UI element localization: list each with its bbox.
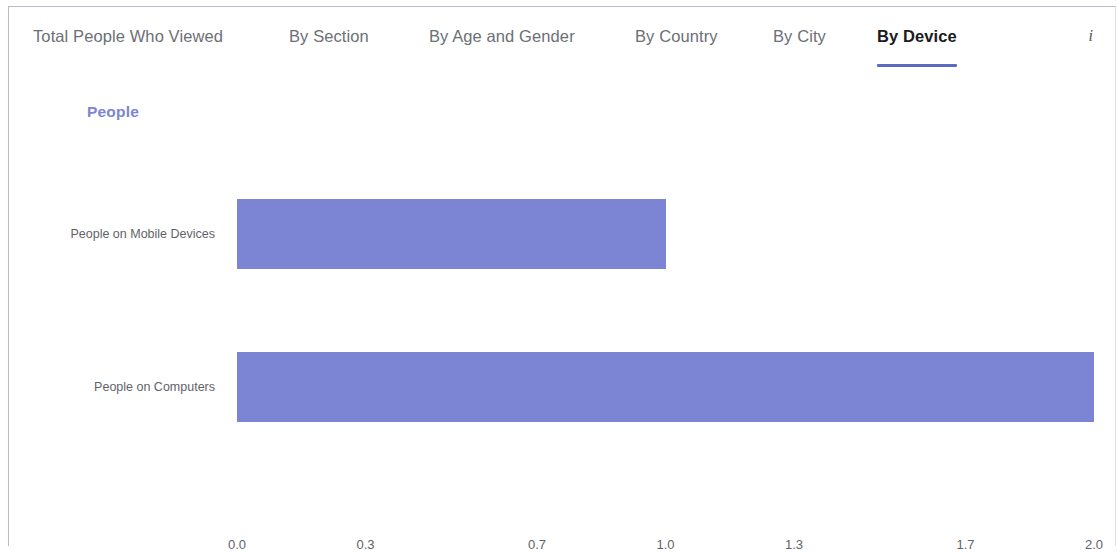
x-axis-tick: 2.0 xyxy=(1085,537,1103,552)
analytics-card: Total People Who Viewed By Section By Ag… xyxy=(8,6,1116,546)
tab-by-city[interactable]: By City xyxy=(773,23,826,49)
tab-label: Total People Who Viewed xyxy=(33,27,223,45)
active-tab-indicator xyxy=(877,64,957,67)
info-icon[interactable]: i xyxy=(1089,23,1093,49)
x-axis: 0.00.30.71.01.31.72.0 xyxy=(237,537,1094,553)
tab-total-people-who-viewed[interactable]: Total People Who Viewed xyxy=(33,23,223,49)
bar-row: People on Computers xyxy=(237,352,1094,422)
tab-bar: Total People Who Viewed By Section By Ag… xyxy=(9,23,1115,75)
tab-label: By City xyxy=(773,27,826,45)
category-label: People on Computers xyxy=(94,380,215,394)
tab-label: By Age and Gender xyxy=(429,27,575,45)
chart-legend-people: People xyxy=(87,103,139,121)
x-axis-tick: 0.3 xyxy=(357,537,375,552)
x-axis-tick: 0.7 xyxy=(528,537,546,552)
tab-label: By Section xyxy=(289,27,369,45)
plot-area: People on Mobile Devices People on Compu… xyxy=(237,190,1094,470)
x-axis-tick: 1.7 xyxy=(956,537,974,552)
x-axis-tick: 1.0 xyxy=(656,537,674,552)
tab-by-country[interactable]: By Country xyxy=(635,23,718,49)
bar-row: People on Mobile Devices xyxy=(237,199,1094,269)
x-axis-tick: 0.0 xyxy=(228,537,246,552)
category-label: People on Mobile Devices xyxy=(70,227,215,241)
device-bar-chart: People People on Mobile Devices People o… xyxy=(9,75,1115,546)
tab-label: By Device xyxy=(877,27,957,45)
tab-by-device[interactable]: By Device xyxy=(877,23,957,49)
bar-people-on-mobile-devices[interactable] xyxy=(237,199,666,269)
x-axis-tick: 1.3 xyxy=(785,537,803,552)
tab-by-age-and-gender[interactable]: By Age and Gender xyxy=(429,23,575,49)
bar-people-on-computers[interactable] xyxy=(237,352,1094,422)
tab-by-section[interactable]: By Section xyxy=(289,23,369,49)
tab-label: By Country xyxy=(635,27,718,45)
